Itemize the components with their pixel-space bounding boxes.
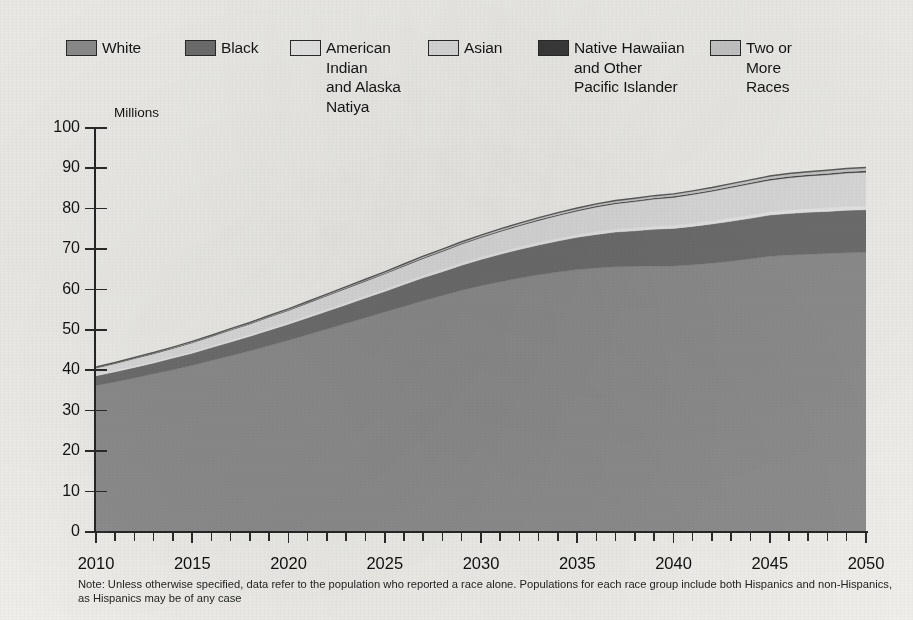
x-axis-tick-minor bbox=[172, 532, 174, 541]
legend-item[interactable]: White bbox=[66, 38, 185, 58]
y-axis-tick-label: 50 bbox=[62, 321, 80, 337]
x-axis-tick-minor bbox=[153, 532, 155, 541]
legend-item-label: Native Hawaiian and Other Pacific Island… bbox=[574, 38, 685, 97]
y-axis-tick bbox=[85, 450, 107, 452]
x-axis-tick-minor bbox=[365, 532, 367, 541]
y-axis-tick-label: 30 bbox=[62, 402, 80, 418]
x-axis-tick-minor bbox=[499, 532, 501, 541]
y-axis-tick bbox=[85, 248, 107, 250]
y-axis-tick-label: 60 bbox=[62, 281, 80, 297]
x-axis-tick-minor bbox=[615, 532, 617, 541]
x-axis-tick-major bbox=[673, 532, 675, 543]
legend-swatch-white bbox=[66, 40, 97, 56]
legend-swatch-asian bbox=[428, 40, 459, 56]
legend-item-label: Asian bbox=[464, 38, 502, 58]
legend-item[interactable]: Black bbox=[185, 38, 290, 58]
legend-item-label: Two or More Races bbox=[746, 38, 792, 97]
x-axis-tick-label: 2010 bbox=[78, 555, 115, 572]
stacked-area-plot bbox=[96, 127, 866, 531]
y-axis-tick-label: 100 bbox=[53, 119, 80, 135]
x-axis-tick-minor bbox=[268, 532, 270, 541]
x-axis-tick-minor bbox=[307, 532, 309, 541]
chart-footnote: Note: Unless otherwise specified, data r… bbox=[78, 578, 902, 605]
x-axis-tick-major bbox=[769, 532, 771, 543]
y-axis-tick bbox=[85, 167, 107, 169]
x-axis-tick-major bbox=[576, 532, 578, 543]
x-axis-tick-minor bbox=[519, 532, 521, 541]
x-axis-tick-minor bbox=[750, 532, 752, 541]
x-axis-tick-major bbox=[384, 532, 386, 543]
x-axis-tick-major bbox=[288, 532, 290, 543]
y-axis-tick bbox=[85, 410, 107, 412]
x-axis-tick-minor bbox=[230, 532, 232, 541]
x-axis-tick-major bbox=[480, 532, 482, 543]
y-axis-tick-label: 20 bbox=[62, 442, 80, 458]
x-axis-tick-minor bbox=[134, 532, 136, 541]
x-axis-tick-minor bbox=[114, 532, 116, 541]
x-axis-tick-minor bbox=[730, 532, 732, 541]
legend-item[interactable]: American Indian and Alaska Natiya bbox=[290, 38, 428, 116]
area-band bbox=[96, 252, 866, 531]
x-axis-tick-minor bbox=[596, 532, 598, 541]
legend-swatch-black bbox=[185, 40, 216, 56]
legend-swatch-two-or-more bbox=[710, 40, 741, 56]
y-axis-tick bbox=[85, 127, 107, 129]
x-axis-tick-label: 2050 bbox=[848, 555, 885, 572]
chart-legend: WhiteBlackAmerican Indian and Alaska Nat… bbox=[66, 38, 904, 112]
legend-item-label: American Indian and Alaska Natiya bbox=[326, 38, 428, 116]
y-axis-tick-label: 10 bbox=[62, 483, 80, 499]
x-axis-tick-label: 2035 bbox=[559, 555, 596, 572]
x-axis-tick-minor bbox=[692, 532, 694, 541]
x-axis-tick-label: 2040 bbox=[655, 555, 692, 572]
x-axis-tick-label: 2015 bbox=[174, 555, 211, 572]
y-axis-tick-label: 40 bbox=[62, 361, 80, 377]
x-axis-tick-minor bbox=[249, 532, 251, 541]
y-axis-tick-label: 90 bbox=[62, 159, 80, 175]
y-axis-tick bbox=[85, 369, 107, 371]
x-axis-tick-major bbox=[191, 532, 193, 543]
x-axis-tick-label: 2025 bbox=[366, 555, 403, 572]
x-axis-tick-minor bbox=[538, 532, 540, 541]
x-axis-tick-major bbox=[865, 532, 867, 543]
y-axis-tick-label: 80 bbox=[62, 200, 80, 216]
x-axis-tick-label: 2020 bbox=[270, 555, 307, 572]
x-axis-tick-minor bbox=[634, 532, 636, 541]
legend-item[interactable]: Native Hawaiian and Other Pacific Island… bbox=[538, 38, 710, 97]
x-axis-tick-label: 2030 bbox=[463, 555, 500, 572]
x-axis-tick-minor bbox=[403, 532, 405, 541]
legend-item-label: White bbox=[102, 38, 141, 58]
x-axis-tick-label: 2045 bbox=[751, 555, 788, 572]
y-axis-tick-label: 0 bbox=[71, 523, 80, 539]
x-axis-tick-minor bbox=[461, 532, 463, 541]
x-axis-tick-minor bbox=[711, 532, 713, 541]
x-axis-tick-major bbox=[95, 532, 97, 543]
x-axis-tick-minor bbox=[326, 532, 328, 541]
y-axis-tick-label: 70 bbox=[62, 240, 80, 256]
y-axis-title: Millions bbox=[114, 105, 159, 120]
x-axis-tick-minor bbox=[442, 532, 444, 541]
x-axis-tick-minor bbox=[653, 532, 655, 541]
x-axis-tick-minor bbox=[807, 532, 809, 541]
x-axis-tick-minor bbox=[846, 532, 848, 541]
y-axis-tick bbox=[85, 289, 107, 291]
legend-swatch-american-indian bbox=[290, 40, 321, 56]
plot-area: Millions 1009080706050403020100 20102015… bbox=[96, 127, 866, 531]
x-axis-tick-minor bbox=[345, 532, 347, 541]
x-axis-tick-minor bbox=[557, 532, 559, 541]
x-axis-tick-minor bbox=[211, 532, 213, 541]
y-axis-tick bbox=[85, 208, 107, 210]
y-axis-tick bbox=[85, 491, 107, 493]
legend-item[interactable]: Two or More Races bbox=[710, 38, 792, 97]
x-axis-tick-minor bbox=[827, 532, 829, 541]
x-axis-tick-minor bbox=[422, 532, 424, 541]
legend-item-label: Black bbox=[221, 38, 258, 58]
x-axis-tick-minor bbox=[788, 532, 790, 541]
legend-item[interactable]: Asian bbox=[428, 38, 538, 58]
legend-swatch-native-hawaiian bbox=[538, 40, 569, 56]
y-axis-tick bbox=[85, 329, 107, 331]
